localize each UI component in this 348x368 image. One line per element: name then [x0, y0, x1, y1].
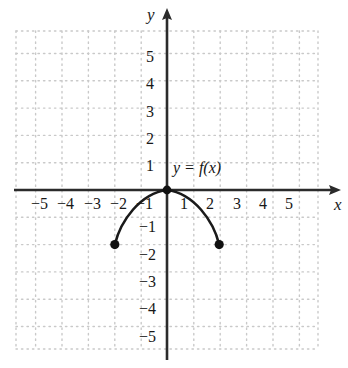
x-tick-1: −4 [57, 196, 74, 212]
x-tick-9: 5 [285, 196, 293, 212]
y-tick-6: −2 [139, 247, 156, 263]
endpoint-right [215, 240, 224, 249]
x-tick-4: −1 [136, 196, 153, 212]
y-tick-0: 5 [146, 49, 154, 65]
y-tick-5: −1 [139, 219, 156, 235]
curve-label: y = f(x) [173, 160, 221, 176]
y-axis-label: y [147, 6, 155, 23]
y-tick-7: −3 [139, 274, 156, 290]
x-tick-5: 1 [180, 196, 188, 212]
endpoint-left [110, 240, 119, 249]
x-tick-2: −3 [84, 196, 101, 212]
x-tick-7: 3 [233, 196, 241, 212]
coordinate-plane [0, 0, 348, 368]
x-axis-label: x [334, 196, 342, 213]
y-tick-4: 1 [146, 158, 154, 174]
y-tick-8: −4 [139, 301, 156, 317]
y-axis [162, 8, 172, 360]
x-tick-8: 4 [259, 196, 267, 212]
graph-figure: y x y = f(x) −5−4−3−2−112345 54321−1−2−3… [0, 0, 348, 368]
y-tick-9: −5 [139, 329, 156, 345]
x-tick-0: −5 [31, 196, 48, 212]
vertex-origin [163, 186, 172, 195]
x-tick-3: −2 [110, 196, 127, 212]
y-tick-2: 3 [146, 104, 154, 120]
y-tick-1: 4 [146, 76, 154, 92]
y-tick-3: 2 [146, 131, 154, 147]
x-tick-6: 2 [206, 196, 214, 212]
